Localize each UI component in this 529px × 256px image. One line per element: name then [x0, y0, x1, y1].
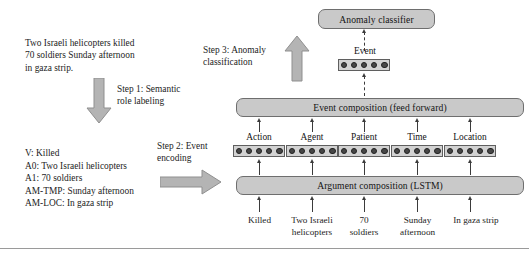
connector-lstm-to-action	[259, 162, 260, 175]
agent-vector	[286, 145, 338, 157]
vector-dot	[487, 148, 494, 155]
connector-action-to-eventcomp	[259, 121, 260, 132]
vector-dot	[276, 148, 283, 155]
connector-eventcomp-to-event	[364, 76, 365, 96]
role-label-agent: Agent	[286, 132, 338, 144]
vector-dot	[341, 148, 348, 155]
step3-label: Step 3: Anomaly classification	[203, 44, 293, 68]
connector-agent-to-eventcomp	[312, 121, 313, 132]
connector-time-to-eventcomp	[417, 121, 418, 132]
word-label-agent: Two Israeli helicopters	[283, 215, 341, 239]
vector-dot	[477, 148, 484, 155]
anomaly-classifier-box[interactable]: Anomaly classifier	[318, 9, 435, 29]
patient-vector	[338, 145, 390, 157]
connector-gazastrip-to-lstm	[470, 199, 471, 212]
vector-dot	[256, 148, 263, 155]
vector-dot	[341, 62, 348, 69]
bottom-divider	[0, 248, 529, 249]
event-composition-box[interactable]: Event composition (feed forward)	[236, 98, 524, 117]
role-label-patient: Patient	[338, 132, 390, 144]
vector-dot	[266, 148, 273, 155]
step3-up-arrow-icon	[284, 36, 310, 82]
connector-patient-to-eventcomp	[364, 121, 365, 132]
vector-dot	[361, 62, 368, 69]
vector-dot	[414, 148, 421, 155]
vector-dot	[371, 62, 378, 69]
vector-dot	[404, 148, 411, 155]
connector-lstm-to-agent	[312, 162, 313, 175]
vector-dot	[319, 148, 326, 155]
vector-dot	[236, 148, 243, 155]
step1-down-arrow-icon	[86, 78, 112, 124]
vector-dot	[351, 148, 358, 155]
input-sentence-text: Two Israeli helicopters killed 70 soldie…	[25, 37, 205, 74]
connector-afternoon-to-lstm	[417, 199, 418, 212]
step2-label: Step 2: Event encoding	[157, 140, 233, 164]
vector-dot	[246, 148, 253, 155]
vector-dot	[309, 148, 316, 155]
location-vector	[444, 145, 496, 157]
vector-dot	[447, 148, 454, 155]
connector-killed-to-lstm	[259, 199, 260, 212]
word-label-location: In gaza strip	[441, 215, 511, 227]
vector-dot	[381, 62, 388, 69]
role-label-action: Action	[233, 132, 285, 144]
event-vector	[338, 59, 390, 71]
vector-dot	[424, 148, 431, 155]
vector-dot	[457, 148, 464, 155]
word-label-action: Killed	[232, 215, 287, 227]
connector-lstm-to-patient	[364, 162, 365, 175]
time-vector	[391, 145, 443, 157]
word-label-patient: 70 soldiers	[337, 215, 391, 239]
connector-lstm-to-location	[470, 162, 471, 175]
connector-soldiers-to-lstm	[364, 199, 365, 212]
connector-location-to-eventcomp	[470, 121, 471, 132]
figure-canvas: Two Israeli helicopters killed 70 soldie…	[0, 0, 529, 256]
vector-dot	[361, 148, 368, 155]
vector-dot	[371, 148, 378, 155]
vector-dot	[299, 148, 306, 155]
vector-dot	[394, 148, 401, 155]
role-label-location: Location	[444, 132, 496, 144]
vector-dot	[351, 62, 358, 69]
connector-helicopters-to-lstm	[312, 199, 313, 212]
vector-dot	[467, 148, 474, 155]
event-vector-label: Event	[339, 46, 391, 58]
action-vector	[233, 145, 285, 157]
vector-dot	[434, 148, 441, 155]
argument-composition-box[interactable]: Argument composition (LSTM)	[236, 176, 524, 195]
vector-dot	[289, 148, 296, 155]
vector-dot	[381, 148, 388, 155]
step1-label: Step 1: Semantic role labeling	[117, 83, 212, 107]
word-label-time: Sunday afternoon	[390, 215, 445, 239]
connector-lstm-to-time	[417, 162, 418, 175]
vector-dot	[329, 148, 336, 155]
step2-right-arrow-icon	[160, 169, 222, 195]
role-label-time: Time	[391, 132, 443, 144]
